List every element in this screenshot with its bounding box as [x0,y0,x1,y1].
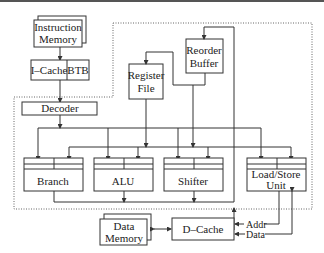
processor-diagram: Instruction Memory I–Cache BTB Decoder R… [0,0,324,253]
instruction-memory-label-2: Memory [39,33,77,45]
decoder-label: Decoder [41,102,79,114]
shifter-unit: Shifter [164,158,223,191]
alu-unit: ALU [94,158,153,191]
reorder-buffer-label-1: Reorder [186,44,222,56]
load-store-unit: Load/Store Unit [247,158,306,191]
decoder-block: Decoder [22,102,97,115]
data-memory-label-1: Data [114,220,135,232]
reorder-buffer-block: Reorder Buffer [186,39,223,73]
icache-label: I–Cache [31,64,68,76]
dcache-label: D–Cache [183,223,224,235]
instruction-memory-block: Instruction Memory [34,16,86,47]
icache-btb-block: I–Cache BTB [31,60,89,80]
btb-label: BTB [67,64,88,76]
register-file-label-1: Register [128,69,165,81]
alu-label: ALU [112,175,135,187]
load-store-label-2: Unit [266,179,286,191]
data-memory-block: Data Memory [100,214,151,245]
branch-label: Branch [37,175,69,187]
shifter-label: Shifter [178,175,208,187]
data-memory-label-2: Memory [105,232,143,244]
branch-unit: Branch [24,158,83,191]
instruction-memory-label-1: Instruction [34,21,82,33]
dcache-block: D–Cache [172,218,234,240]
data-label: Data [246,229,265,240]
register-file-label-2: File [137,82,154,94]
register-file-block: Register File [128,64,165,99]
reorder-buffer-label-2: Buffer [190,57,219,69]
